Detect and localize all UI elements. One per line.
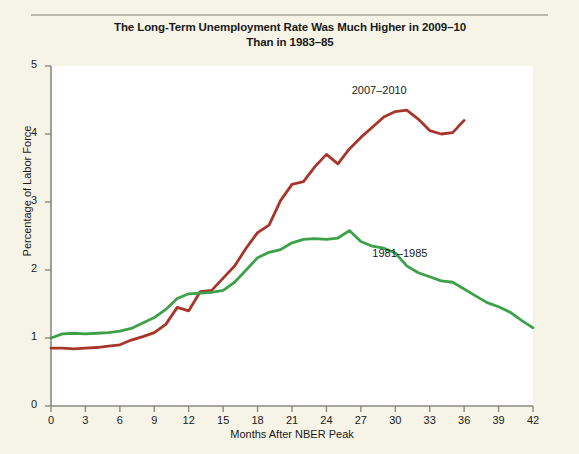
- plot-background: [51, 66, 533, 406]
- plot-area: 012345 03691215182124273033363942 Percen…: [0, 0, 579, 454]
- y-axis-ticks: [45, 66, 51, 406]
- x-axis-tick-label: 30: [383, 414, 407, 426]
- x-axis-tick-label: 0: [39, 414, 63, 426]
- line-chart-canvas: [0, 0, 579, 454]
- series-label-1: 2007–2010: [352, 84, 407, 96]
- y-axis-tick-label: 5: [15, 58, 37, 70]
- x-axis-title: Months After NBER Peak: [51, 428, 533, 440]
- figure-panel: The Long-Term Unemployment Rate Was Much…: [0, 0, 579, 454]
- x-axis-tick-label: 3: [73, 414, 97, 426]
- y-axis-tick-label: 1: [15, 330, 37, 342]
- x-axis-tick-label: 27: [349, 414, 373, 426]
- x-axis-tick-label: 9: [142, 414, 166, 426]
- x-axis-tick-label: 39: [487, 414, 511, 426]
- x-axis-tick-label: 18: [246, 414, 270, 426]
- x-axis-tick-label: 42: [521, 414, 545, 426]
- x-axis-tick-label: 24: [314, 414, 338, 426]
- x-axis-ticks: [51, 406, 533, 412]
- x-axis-tick-label: 21: [280, 414, 304, 426]
- x-axis-tick-label: 33: [418, 414, 442, 426]
- y-axis-tick-label: 0: [15, 398, 37, 410]
- x-axis-tick-label: 36: [452, 414, 476, 426]
- y-axis-title: Percentage of Labor Force: [21, 101, 33, 281]
- x-axis-tick-label: 15: [211, 414, 235, 426]
- x-axis-tick-label: 6: [108, 414, 132, 426]
- x-axis-tick-label: 12: [177, 414, 201, 426]
- series-label-2: 1981–1985: [372, 247, 427, 259]
